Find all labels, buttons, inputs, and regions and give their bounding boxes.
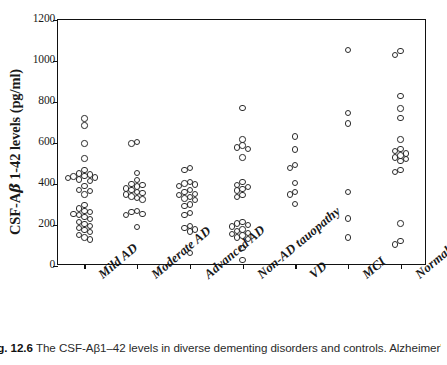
y-axis-title-post: 1-42 levels (pg/ml) [7,69,23,183]
x-axis-tick-mark [243,264,244,269]
data-point [139,196,145,202]
data-point [181,195,187,201]
data-point [87,236,93,242]
data-point [192,197,198,203]
y-axis-tick-mark [53,20,58,21]
data-point [239,154,245,160]
data-point [234,194,240,200]
data-point [397,167,403,173]
data-point [239,192,245,198]
x-axis-tick-mark [401,264,402,269]
data-point [239,105,245,111]
x-axis-tick-mark [348,264,349,269]
data-point [181,180,187,186]
data-point [81,140,87,146]
y-axis-title-pre: CSF-A [7,193,23,235]
data-point [134,224,140,230]
data-point [345,215,351,221]
x-axis-tick-mark [137,264,138,269]
x-axis-tick-mark [190,264,191,269]
data-point [345,189,351,195]
y-axis-tick-label: 200 [25,218,55,230]
data-point [87,229,93,235]
plot-area [57,19,426,265]
data-point [397,158,403,164]
x-axis-tick-label: MCI [359,270,369,282]
data-point [139,211,145,217]
x-axis-tick-mark [84,264,85,269]
data-point [397,115,403,121]
x-axis-tick-label: VD [306,270,316,282]
data-point [397,220,403,226]
data-point [287,191,293,197]
data-point [176,183,182,189]
y-axis-tick-mark [53,143,58,144]
y-axis-tick-label: 400 [25,177,55,189]
y-axis-tick-label: 0 [25,259,55,271]
data-point [81,115,87,121]
data-point [292,180,298,186]
y-axis-tick-label: 600 [25,136,55,148]
y-axis-title-beta: β [6,183,23,193]
data-point [292,201,298,207]
x-axis-tick-label: Mild AD [95,270,105,282]
data-point [81,122,87,128]
x-axis-tick-label: Normal [412,270,422,282]
data-point [65,175,71,181]
data-point [345,234,351,240]
data-point [397,238,403,244]
data-point [81,155,87,161]
y-axis-tick-mark [53,184,58,185]
data-point [392,52,398,58]
data-point [139,182,145,188]
data-point [397,48,403,54]
y-axis-tick-mark [53,61,58,62]
y-axis-tick-mark [53,266,58,267]
data-point [345,120,351,126]
data-point [76,176,82,182]
data-point [292,146,298,152]
x-axis-tick-mark [295,264,296,269]
data-point [128,209,134,215]
data-point [181,167,187,173]
data-point [397,105,403,111]
data-point [345,110,351,116]
data-point [128,140,134,146]
data-point [287,165,293,171]
y-axis-tick-labels: 020040060080010001200 [22,0,55,335]
figure-caption: ig. 12.6 The CSF-Aβ1–42 levels in divers… [0,341,441,354]
data-point [397,93,403,99]
data-point [292,133,298,139]
x-axis-tick-label: Advanced AD [201,270,211,282]
data-point [245,146,251,152]
data-point [181,212,187,218]
data-point [234,144,240,150]
data-point [192,181,198,187]
y-axis-tick-mark [53,225,58,226]
figure-csf-abeta-scatter: CSF-Aβ 1-42 levels (pg/ml) 0200400600800… [0,0,447,335]
data-point [397,136,403,142]
data-point [181,203,187,209]
data-point [392,169,398,175]
data-point [123,212,129,218]
y-axis-tick-label: 1000 [25,54,55,66]
data-point [392,241,398,247]
data-point [345,47,351,53]
data-point [81,191,87,197]
x-axis-tick-label: Non-AD tauopathy [254,270,264,282]
data-point [87,178,93,184]
x-axis-tick-label: Moderate AD [148,270,158,282]
y-axis-tick-label: 800 [25,95,55,107]
caption-text: The CSF-Aβ1–42 levels in diverse dementi… [33,341,441,354]
y-axis-tick-label: 1200 [25,13,55,25]
data-point [81,173,87,179]
data-point [134,170,140,176]
y-axis-tick-mark [53,102,58,103]
data-point [239,257,245,263]
caption-figure-number: ig. 12.6 [0,341,33,354]
